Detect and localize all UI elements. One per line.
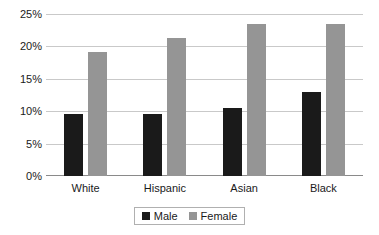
bar-male-black xyxy=(302,92,321,176)
bar-groups xyxy=(46,14,363,176)
bar-group-asian xyxy=(205,14,284,176)
legend-label-male: Male xyxy=(154,210,178,222)
y-axis-tick-label: 20% xyxy=(2,41,42,52)
bar-male-hispanic xyxy=(143,114,162,176)
bar-male-asian xyxy=(223,108,242,176)
plot-area xyxy=(46,14,363,176)
legend-entry-male: Male xyxy=(142,210,178,222)
bar-female-asian xyxy=(247,24,266,176)
bar-chart: 25% 20% 15% 10% 5% 0% xyxy=(0,0,379,235)
x-axis-tick-label: White xyxy=(46,182,125,194)
bar-male-white xyxy=(64,114,83,176)
y-axis-tick-label: 15% xyxy=(2,74,42,85)
legend-swatch-male-icon xyxy=(142,212,150,220)
legend-swatch-female-icon xyxy=(189,212,197,220)
bar-group-hispanic xyxy=(125,14,204,176)
legend-entry-female: Female xyxy=(189,210,238,222)
y-axis-tick-label: 10% xyxy=(2,106,42,117)
bar-female-white xyxy=(88,52,107,176)
x-axis-labels: White Hispanic Asian Black xyxy=(46,182,363,194)
bar-female-hispanic xyxy=(167,38,186,176)
legend: Male Female xyxy=(0,207,379,225)
x-axis-tick-label: Asian xyxy=(205,182,284,194)
legend-label-female: Female xyxy=(201,210,238,222)
legend-box: Male Female xyxy=(134,207,246,225)
y-axis-tick-label: 0% xyxy=(2,171,42,182)
bar-group-white xyxy=(46,14,125,176)
y-axis: 25% 20% 15% 10% 5% 0% xyxy=(0,14,42,176)
x-axis-tick-label: Black xyxy=(284,182,363,194)
bar-female-black xyxy=(326,24,345,176)
y-axis-tick-label: 25% xyxy=(2,9,42,20)
x-axis-tick-label: Hispanic xyxy=(125,182,204,194)
y-axis-tick-label: 5% xyxy=(2,139,42,150)
bar-group-black xyxy=(284,14,363,176)
